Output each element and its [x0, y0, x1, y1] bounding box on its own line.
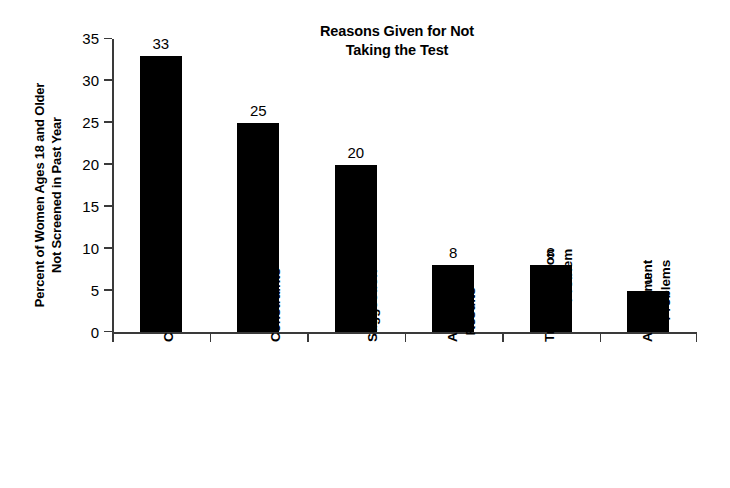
y-axis-title-line-2: Not Screened in Past Year — [48, 83, 65, 307]
x-category-5-line-1: Problems — [656, 260, 674, 342]
x-category-4-line-1: Problem — [559, 249, 577, 342]
x-category-1-line-0: Time — [249, 268, 267, 342]
x-tick-0 — [112, 334, 114, 342]
y-tick-0: 0 — [104, 331, 112, 333]
bar-value-label-1: 25 — [250, 103, 267, 118]
bar-value-label-2: 20 — [347, 145, 364, 160]
y-tick-label-5: 5 — [91, 282, 99, 297]
y-tick-label-35: 35 — [82, 31, 99, 46]
bar-chart: Reasons Given for Not Taking the Test Pe… — [0, 0, 730, 488]
y-tick-35: 35 — [104, 38, 112, 40]
x-tick-3 — [405, 334, 407, 342]
x-category-0-line-0: Cost — [160, 312, 178, 342]
x-tick-2 — [307, 334, 309, 342]
x-category-3-line-0: Afraid of — [444, 287, 462, 342]
bar-value-label-0: 33 — [152, 36, 169, 51]
y-tick-20: 20 — [104, 163, 112, 165]
y-tick-label-25: 25 — [82, 115, 99, 130]
x-category-2-line-0: No M.D. — [346, 270, 364, 343]
y-tick-label-30: 30 — [82, 73, 99, 88]
x-tick-1 — [210, 334, 212, 342]
y-tick-label-0: 0 — [91, 324, 99, 339]
y-tick-5: 5 — [104, 289, 112, 291]
x-category-2-line-1: Suggestion — [364, 270, 382, 343]
x-category-4-line-0: Transportation — [541, 249, 559, 342]
y-tick-label-15: 15 — [82, 198, 99, 213]
y-tick-15: 15 — [104, 205, 112, 207]
y-axis-title-line-1: Percent of Women Ages 18 and Older — [31, 83, 48, 307]
bar-value-label-3: 8 — [449, 245, 457, 260]
y-axis-line — [112, 39, 114, 334]
y-tick-30: 30 — [104, 79, 112, 81]
x-category-5-line-0: Appointment — [639, 260, 657, 342]
plot-area: 05101520253035 332520885 — [112, 30, 697, 334]
bar-0: 33 — [140, 56, 182, 333]
y-tick-label-10: 10 — [82, 240, 99, 255]
x-tick-end — [696, 334, 698, 342]
y-tick-10: 10 — [104, 247, 112, 249]
x-tick-5 — [600, 334, 602, 342]
x-category-1-line-1: Constraints — [266, 268, 284, 342]
y-tick-label-20: 20 — [82, 157, 99, 172]
x-tick-4 — [502, 334, 504, 342]
y-tick-25: 25 — [104, 121, 112, 123]
y-axis-title: Percent of Women Ages 18 and Older Not S… — [26, 60, 70, 330]
x-category-3-line-1: Results — [461, 287, 479, 342]
